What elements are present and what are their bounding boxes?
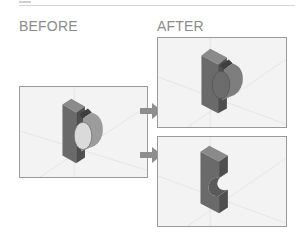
after-label: AFTER <box>157 18 204 34</box>
block-with-cut <box>200 146 227 213</box>
grid-axes <box>158 137 285 226</box>
before-label: BEFORE <box>19 18 78 34</box>
block-with-boss-result <box>201 49 242 114</box>
after-top-model-view <box>158 38 286 127</box>
before-model-view <box>20 87 147 177</box>
after-bottom-panel <box>157 136 287 227</box>
block-with-boss <box>62 99 102 164</box>
after-top-panel <box>157 37 287 128</box>
header-divider <box>19 5 295 6</box>
header-mark <box>19 1 31 3</box>
before-panel <box>19 86 148 178</box>
after-bottom-model-view <box>158 137 286 226</box>
